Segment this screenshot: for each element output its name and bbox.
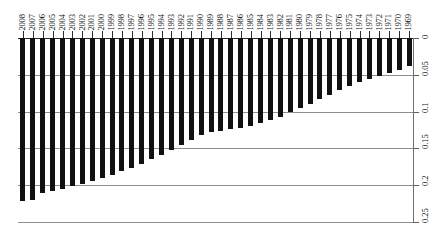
y-axis-label: 0.2	[421, 176, 430, 187]
bar	[278, 38, 283, 117]
x-axis-label: 1980	[295, 14, 304, 30]
gridline	[18, 222, 414, 223]
bar	[407, 38, 412, 66]
y-axis-tick-labels: 00.050.10.150.20.25	[414, 0, 436, 232]
x-axis-tick	[251, 31, 252, 38]
x-axis-tick	[152, 31, 153, 38]
x-axis-tick	[290, 31, 291, 38]
bar	[337, 38, 342, 90]
x-axis-tick	[330, 31, 331, 38]
x-axis-label: 1978	[315, 14, 324, 30]
bar	[228, 38, 233, 129]
x-axis-category-labels: 2008200720062005200420032002200120001999…	[18, 0, 414, 31]
bar	[238, 38, 243, 128]
x-axis-label: 1992	[176, 14, 185, 30]
x-axis-tick	[82, 31, 83, 38]
x-axis-tick	[320, 31, 321, 38]
x-axis-label: 1975	[344, 14, 353, 30]
x-axis-label: 1991	[186, 14, 195, 30]
bar	[397, 38, 402, 70]
bar	[50, 38, 55, 191]
x-axis-label: 1994	[156, 14, 165, 30]
x-axis-label: 2005	[47, 14, 56, 30]
x-axis-label: 1983	[265, 14, 274, 30]
bar	[40, 38, 45, 193]
bar	[30, 38, 35, 200]
bar	[317, 38, 322, 99]
x-axis-label: 1996	[136, 14, 145, 30]
x-axis-label: 1998	[117, 14, 126, 30]
bar	[298, 38, 303, 108]
bar	[70, 38, 75, 186]
y-axis-label: 0.1	[421, 102, 430, 113]
x-axis-tick	[53, 31, 54, 38]
x-axis-tick	[241, 31, 242, 38]
x-axis-label: 1993	[166, 14, 175, 30]
x-axis-label: 1979	[305, 14, 314, 30]
y-axis-tick	[414, 112, 419, 113]
x-axis-tick	[270, 31, 271, 38]
x-axis-tick	[171, 31, 172, 38]
x-axis-label: 1971	[384, 14, 393, 30]
bar	[110, 38, 115, 175]
bar	[90, 38, 95, 181]
bar	[268, 38, 273, 120]
y-axis-tick	[414, 222, 419, 223]
x-axis-label: 1986	[235, 14, 244, 30]
x-axis-tick	[389, 31, 390, 38]
x-axis-tick	[132, 31, 133, 38]
x-axis-label: 2001	[87, 14, 96, 30]
x-axis-tick	[102, 31, 103, 38]
x-axis-tick	[261, 31, 262, 38]
y-axis-label: 0.05	[421, 61, 430, 76]
x-axis-label: 1972	[374, 14, 383, 30]
bar	[80, 38, 85, 184]
x-axis-tick	[310, 31, 311, 38]
x-axis-tick	[350, 31, 351, 38]
y-axis-tick	[414, 38, 419, 39]
x-axis-tick	[369, 31, 370, 38]
bar	[308, 38, 313, 104]
x-axis-label: 1995	[146, 14, 155, 30]
bar	[357, 38, 362, 82]
x-axis-label: 2006	[37, 14, 46, 30]
y-axis-label: 0.25	[421, 208, 430, 223]
bar	[347, 38, 352, 86]
x-axis-label: 1989	[206, 14, 215, 30]
x-axis-tick	[231, 31, 232, 38]
y-axis-label: 0.15	[421, 135, 430, 150]
y-axis-tick	[414, 148, 419, 149]
x-axis-tick	[162, 31, 163, 38]
x-axis-label: 1984	[255, 14, 264, 30]
x-axis-label: 2008	[18, 14, 27, 30]
bar	[209, 38, 214, 132]
x-axis-label: 2004	[57, 14, 66, 30]
x-axis-label: 1987	[226, 14, 235, 30]
x-axis-label: 1981	[285, 14, 294, 30]
y-axis-label: 0	[421, 35, 430, 39]
x-axis-label: 1990	[196, 14, 205, 30]
x-axis-tick	[201, 31, 202, 38]
x-axis-tick	[181, 31, 182, 38]
bar	[327, 38, 332, 95]
x-axis-tick	[211, 31, 212, 38]
bar	[387, 38, 392, 73]
x-axis-tick	[409, 31, 410, 38]
bar	[367, 38, 372, 79]
x-axis-tick	[63, 31, 64, 38]
x-axis-label: 2002	[77, 14, 86, 30]
x-axis-tick	[360, 31, 361, 38]
x-axis-label: 1973	[364, 14, 373, 30]
x-axis-label: 1985	[245, 14, 254, 30]
bar	[20, 38, 25, 201]
bar	[288, 38, 293, 112]
bar	[139, 38, 144, 164]
x-axis-tick	[33, 31, 34, 38]
x-axis-tick	[92, 31, 93, 38]
x-axis-label: 1999	[107, 14, 116, 30]
bar-chart: 2008200720062005200420032002200120001999…	[0, 0, 436, 232]
x-axis-tick	[142, 31, 143, 38]
x-axis-tick	[191, 31, 192, 38]
bar	[199, 38, 204, 135]
bar	[119, 38, 124, 171]
